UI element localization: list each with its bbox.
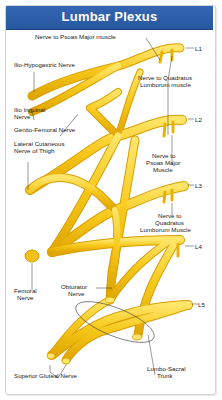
label-lumbosacral-line2: Trunk (157, 372, 173, 379)
root-labels: L1 L2 L3 L4 L5 (195, 45, 205, 308)
label-femoral-line1: Femoral (14, 287, 37, 294)
label-lateral-cutaneous-line2: Nerve of Thigh (14, 147, 55, 154)
label-quadratus-l3-line1: Nerve to (158, 212, 182, 219)
label-superior-gluteal: Superior Gluteal Nerve (14, 372, 77, 379)
label-quadratus-l3-line2: Quadratus (155, 219, 184, 226)
label-psoas-major-l2-line1: Nerve to (152, 152, 176, 159)
root-label-l2: L2 (195, 116, 202, 123)
femoral-nerve-cut-end (25, 250, 39, 262)
root-label-l5: L5 (198, 301, 205, 308)
lumbar-plexus-diagram: L1 L2 L3 L4 L5 Nerve to Psoas Major musc… (0, 0, 222, 400)
label-obturator-line1: Obturator (61, 283, 87, 290)
label-lateral-cutaneous-line1: Lateral Cutaneous (14, 140, 65, 147)
gluteal-cut-end-1 (47, 353, 55, 359)
label-femoral-line2: Nerve (17, 294, 34, 301)
root-label-l1: L1 (195, 45, 202, 52)
root-label-l4: L4 (195, 243, 202, 250)
nerve-trunks (30, 48, 188, 360)
label-quadratus-l1-line2: Lumborum muscle (140, 81, 191, 88)
label-ilio-hypogastric: Ilio-Hypogastric Nerve (14, 61, 75, 68)
gluteal-cut-end-2 (62, 358, 70, 364)
branch-psoas-l3 (164, 192, 165, 202)
label-obturator-line2: Nerve (68, 290, 85, 297)
label-lumbosacral-line1: Lumbo-Sacral (147, 365, 186, 372)
label-psoas-major-l2-line2: Psoas Major (146, 159, 180, 166)
lumbosacral-cut-end (132, 334, 142, 340)
label-psoas-major-l1: Nerve to Psoas Major muscle (35, 33, 116, 40)
root-label-l3: L3 (195, 182, 202, 189)
label-genito-femoral: Genito-Femoral Nerve (14, 126, 76, 133)
label-quadratus-l1-line1: Nerve to Quadratus (138, 74, 192, 81)
branch-psoas-l1 (160, 52, 162, 62)
label-psoas-major-l2-line3: Muscle (153, 166, 173, 173)
label-ilio-inguinal-line1: Ilio Inguinal (14, 106, 45, 113)
label-quadratus-l3-line3: Lumborum Muscle (140, 226, 191, 233)
obturator-cut-end (105, 297, 115, 303)
branch-psoas-l2 (164, 124, 165, 136)
label-ilio-inguinal-line2: Nerve (14, 113, 31, 120)
